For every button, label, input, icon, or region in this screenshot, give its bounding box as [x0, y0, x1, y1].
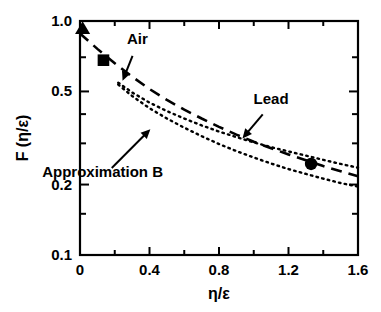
chart-svg: 00.40.81.21.6 1.00.50.20.1 AirLeadApprox… [0, 0, 381, 312]
x-tick-label: 0 [76, 261, 84, 278]
y-axis-label: F (η/ε) [14, 115, 31, 162]
marker-square [98, 54, 110, 66]
x-axis-label: η/ε [208, 285, 230, 302]
chart-background [0, 0, 381, 312]
x-tick-label: 1.6 [348, 261, 369, 278]
annotation-approximation-b: Approximation B [42, 163, 163, 180]
x-tick-label: 0.4 [139, 261, 161, 278]
x-tick-label: 1.2 [278, 261, 299, 278]
y-tick-label: 1.0 [51, 12, 72, 29]
annotation-lead: Lead [254, 90, 289, 107]
x-tick-label: 0.8 [209, 261, 230, 278]
annotation-air: Air [127, 30, 148, 47]
y-tick-label: 0.5 [51, 82, 72, 99]
y-tick-label: 0.1 [51, 246, 72, 263]
marker-circle [305, 158, 317, 170]
chart-figure: 00.40.81.21.6 1.00.50.20.1 AirLeadApprox… [0, 0, 381, 312]
